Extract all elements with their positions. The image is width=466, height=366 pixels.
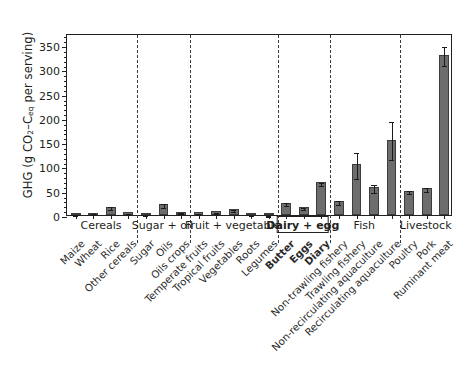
y-axis-minor-tick <box>64 57 67 58</box>
y-axis-minor-tick <box>64 110 67 111</box>
group-label: Fish <box>354 219 375 232</box>
y-axis-minor-tick <box>64 212 67 213</box>
error-bar-cap-bottom <box>108 210 113 211</box>
error-bar-cap-top <box>336 201 341 202</box>
y-axis-minor-tick <box>64 130 67 131</box>
y-axis-minor-tick <box>64 52 67 53</box>
y-axis-minor-tick <box>64 154 67 155</box>
group-separator <box>137 35 138 243</box>
y-axis-title-sub-co2: 2 <box>26 130 35 135</box>
error-bar-cap-top <box>354 153 359 154</box>
y-axis-minor-tick <box>64 86 67 87</box>
y-axis-minor-tick <box>64 178 67 179</box>
group-separator <box>190 35 191 243</box>
error-bar-cap-top <box>319 183 324 184</box>
x-axis-tick <box>76 215 77 219</box>
y-axis-major-tick <box>62 120 67 121</box>
error-bar <box>392 122 393 159</box>
y-axis-minor-tick <box>64 164 67 165</box>
y-axis-major-tick <box>62 96 67 97</box>
group-separator <box>330 35 331 243</box>
y-axis-minor-tick <box>64 188 67 189</box>
y-axis-title-prefix: GHG (g CO <box>21 135 35 199</box>
error-bar-cap-bottom <box>424 192 429 193</box>
y-axis-tick-label: 200 <box>39 113 60 126</box>
chart-root: GHG (g CO2–Ceq per serving) 050100150200… <box>0 0 466 366</box>
group-separator <box>278 35 279 243</box>
y-axis-title-sub-eq: eq <box>26 106 35 116</box>
y-axis-minor-tick <box>64 37 67 38</box>
error-bar-cap-bottom <box>161 208 166 209</box>
group-label-box <box>277 216 330 233</box>
y-axis-major-tick <box>62 144 67 145</box>
y-axis-tick-label: 350 <box>39 41 60 54</box>
bar <box>439 55 449 215</box>
y-axis-minor-tick <box>64 101 67 102</box>
error-bar-cap-top <box>231 210 236 211</box>
y-axis-tick-label: 150 <box>39 138 60 151</box>
group-label: Cereals <box>81 219 122 232</box>
error-bar-cap-bottom <box>354 179 359 180</box>
error-bar-cap-bottom <box>407 194 412 195</box>
error-bar-cap-bottom <box>231 212 236 213</box>
error-bar-cap-top <box>284 203 289 204</box>
y-axis-minor-tick <box>64 76 67 77</box>
y-axis-minor-tick <box>64 105 67 106</box>
y-axis-major-tick <box>62 168 67 169</box>
y-axis-tick-label: 100 <box>39 162 60 175</box>
y-axis-major-tick <box>62 193 67 194</box>
error-bar-cap-top <box>442 47 447 48</box>
x-axis-tick <box>392 215 393 219</box>
y-axis-minor-tick <box>64 139 67 140</box>
x-axis-tick <box>128 215 129 219</box>
error-bar-cap-bottom <box>301 210 306 211</box>
error-bar-cap-top <box>301 208 306 209</box>
y-axis-minor-tick <box>64 62 67 63</box>
plot-area: 050100150200250300350 <box>66 34 452 216</box>
error-bar-cap-bottom <box>371 193 376 194</box>
error-bar-cap-bottom <box>442 66 447 67</box>
y-axis-minor-tick <box>64 115 67 116</box>
y-axis-tick-label: 50 <box>46 186 60 199</box>
y-axis-minor-tick <box>64 42 67 43</box>
y-axis-minor-tick <box>64 183 67 184</box>
y-axis-title-mid: –C <box>21 116 35 130</box>
y-axis-minor-tick <box>64 202 67 203</box>
error-bar-cap-bottom <box>284 206 289 207</box>
y-axis-title-suffix: per serving) <box>21 32 35 107</box>
group-separator <box>400 35 401 243</box>
y-axis-tick-label: 0 <box>53 211 60 224</box>
error-bar-cap-top <box>161 204 166 205</box>
y-axis-minor-tick <box>64 198 67 199</box>
error-bar-cap-top <box>108 207 113 208</box>
y-axis-title: GHG (g CO2–Ceq per serving) <box>21 5 35 225</box>
error-bar <box>444 47 445 65</box>
y-axis-minor-tick <box>64 81 67 82</box>
error-bar-cap-bottom <box>389 160 394 161</box>
error-bar-cap-top <box>424 188 429 189</box>
y-axis-major-tick <box>62 217 67 218</box>
y-axis-major-tick <box>62 71 67 72</box>
error-bar <box>374 185 375 193</box>
y-axis-minor-tick <box>64 159 67 160</box>
error-bar <box>357 153 358 179</box>
error-bar-cap-top <box>389 122 394 123</box>
error-bar-cap-bottom <box>336 205 341 206</box>
y-axis-minor-tick <box>64 134 67 135</box>
y-axis-major-tick <box>62 47 67 48</box>
y-axis-minor-tick <box>64 149 67 150</box>
y-axis-minor-tick <box>64 207 67 208</box>
error-bar-cap-bottom <box>319 186 324 187</box>
error-bar-cap-top <box>371 185 376 186</box>
group-label: Livestock <box>400 219 452 232</box>
y-axis-minor-tick <box>64 91 67 92</box>
y-axis-tick-label: 300 <box>39 65 60 78</box>
y-axis-tick-label: 250 <box>39 89 60 102</box>
y-axis-minor-tick <box>64 67 67 68</box>
y-axis-minor-tick <box>64 125 67 126</box>
y-axis-minor-tick <box>64 173 67 174</box>
error-bar-cap-top <box>407 191 412 192</box>
